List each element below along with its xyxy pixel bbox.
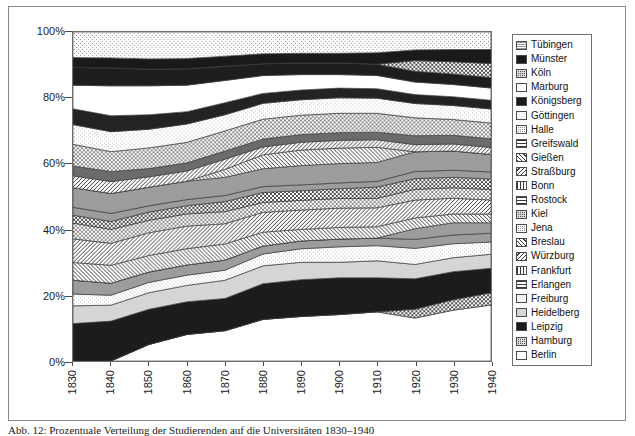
legend-swatch-icon bbox=[516, 224, 527, 233]
legend-swatch-icon bbox=[516, 83, 527, 92]
legend-item-label: Erlangen bbox=[531, 280, 571, 290]
x-tick-label: 1890 bbox=[295, 370, 307, 394]
x-tick-label: 1850 bbox=[142, 370, 154, 394]
x-tick-mark bbox=[225, 362, 226, 366]
legend-swatch-icon bbox=[516, 181, 527, 190]
legend-item-label: Rostock bbox=[531, 195, 567, 205]
legend-swatch-icon bbox=[516, 266, 527, 275]
x-tick-mark bbox=[377, 362, 378, 366]
legend-item-label: Breslau bbox=[531, 237, 565, 247]
legend-item-label: Würzburg bbox=[531, 251, 574, 261]
legend-item[interactable]: Bonn bbox=[516, 179, 588, 193]
x-tick-label: 1830 bbox=[66, 370, 78, 394]
legend-swatch-icon bbox=[516, 111, 527, 120]
stacked-area-series bbox=[73, 32, 491, 361]
legend-swatch-icon bbox=[516, 337, 527, 346]
y-tick-mark bbox=[65, 163, 72, 164]
legend-item[interactable]: Frankfurt bbox=[516, 264, 588, 278]
x-tick-label: 1860 bbox=[181, 370, 193, 394]
y-axis: 0%20%40%60%80%100% bbox=[9, 31, 65, 362]
legend-item[interactable]: Greifswald bbox=[516, 137, 588, 151]
figure-caption: Abb. 12: Prozentuale Verteilung der Stud… bbox=[8, 424, 628, 436]
y-tick-mark bbox=[65, 97, 72, 98]
legend-item-label: Leipzig bbox=[531, 322, 563, 332]
legend-item[interactable]: Berlin bbox=[516, 348, 588, 362]
legend-item[interactable]: Gießen bbox=[516, 151, 588, 165]
x-tick-label: 1920 bbox=[410, 370, 422, 394]
legend-item-label: Bonn bbox=[531, 181, 554, 191]
legend-swatch-icon bbox=[516, 167, 527, 176]
y-tick-label: 100% bbox=[37, 25, 65, 37]
legend-swatch-icon bbox=[516, 210, 527, 219]
plot-wrapper bbox=[72, 31, 492, 362]
legend-item[interactable]: Halle bbox=[516, 123, 588, 137]
legend-item-label: Berlin bbox=[531, 350, 557, 360]
x-tick-mark bbox=[454, 362, 455, 366]
legend-item[interactable]: Jena bbox=[516, 221, 588, 235]
y-tick-label: 40% bbox=[43, 224, 65, 236]
y-tick-label: 0% bbox=[49, 356, 65, 368]
x-tick-mark bbox=[339, 362, 340, 366]
legend-item-label: Frankfurt bbox=[531, 266, 571, 276]
legend-item[interactable]: Münster bbox=[516, 52, 588, 66]
y-tick-mark bbox=[65, 230, 72, 231]
legend-item-label: Heidelberg bbox=[531, 308, 579, 318]
x-tick-mark bbox=[148, 362, 149, 366]
legend-item-label: Gießen bbox=[531, 153, 564, 163]
x-tick-label: 1900 bbox=[333, 370, 345, 394]
x-tick-mark bbox=[492, 362, 493, 366]
legend-item[interactable]: Tübingen bbox=[516, 38, 588, 52]
legend-item-label: Kiel bbox=[531, 209, 548, 219]
legend-item-label: Köln bbox=[531, 68, 551, 78]
legend-swatch-icon bbox=[516, 41, 527, 50]
y-tick-mark bbox=[65, 31, 72, 32]
legend-item-label: Jena bbox=[531, 223, 553, 233]
x-tick-label: 1940 bbox=[486, 370, 498, 394]
legend: TübingenMünsterKölnMarburgKönigsbergGött… bbox=[512, 34, 592, 366]
legend-item-label: Marburg bbox=[531, 82, 568, 92]
figure-frame: 0%20%40%60%80%100% 183018401850186018701… bbox=[8, 6, 626, 421]
legend-item-label: Tübingen bbox=[531, 40, 573, 50]
y-tick-label: 60% bbox=[43, 157, 65, 169]
legend-item[interactable]: Heidelberg bbox=[516, 306, 588, 320]
legend-item[interactable]: Marburg bbox=[516, 80, 588, 94]
legend-swatch-icon bbox=[516, 125, 527, 134]
legend-item[interactable]: Würzburg bbox=[516, 249, 588, 263]
legend-item[interactable]: Rostock bbox=[516, 193, 588, 207]
legend-item[interactable]: Göttingen bbox=[516, 108, 588, 122]
y-tick-mark bbox=[65, 296, 72, 297]
x-tick-mark bbox=[263, 362, 264, 366]
x-tick-label: 1910 bbox=[371, 370, 383, 394]
x-axis: 1830184018501860187018801890190019101920… bbox=[72, 366, 492, 424]
legend-item-label: Münster bbox=[531, 54, 567, 64]
x-tick-label: 1840 bbox=[104, 370, 116, 394]
legend-swatch-icon bbox=[516, 280, 527, 289]
legend-item-label: Freiburg bbox=[531, 294, 568, 304]
x-tick-mark bbox=[301, 362, 302, 366]
legend-item[interactable]: Leipzig bbox=[516, 320, 588, 334]
legend-swatch-icon bbox=[516, 69, 527, 78]
legend-item-label: Hamburg bbox=[531, 336, 572, 346]
x-tick-mark bbox=[72, 362, 73, 366]
x-tick-label: 1870 bbox=[219, 370, 231, 394]
legend-swatch-icon bbox=[516, 308, 527, 317]
legend-item[interactable]: Hamburg bbox=[516, 334, 588, 348]
legend-item[interactable]: Freiburg bbox=[516, 292, 588, 306]
legend-item[interactable]: Köln bbox=[516, 66, 588, 80]
plot-area bbox=[72, 31, 492, 362]
x-tick-mark bbox=[416, 362, 417, 366]
legend-item[interactable]: Erlangen bbox=[516, 278, 588, 292]
x-tick-mark bbox=[187, 362, 188, 366]
legend-swatch-icon bbox=[516, 238, 527, 247]
legend-item[interactable]: Straßburg bbox=[516, 165, 588, 179]
legend-item[interactable]: Kiel bbox=[516, 207, 588, 221]
legend-swatch-icon bbox=[516, 322, 527, 331]
legend-item-label: Königsberg bbox=[531, 96, 582, 106]
legend-item-label: Göttingen bbox=[531, 111, 574, 121]
legend-item[interactable]: Königsberg bbox=[516, 94, 588, 108]
legend-swatch-icon bbox=[516, 252, 527, 261]
legend-swatch-icon bbox=[516, 196, 527, 205]
y-tick-label: 20% bbox=[43, 290, 65, 302]
legend-item[interactable]: Breslau bbox=[516, 235, 588, 249]
legend-swatch-icon bbox=[516, 97, 527, 106]
